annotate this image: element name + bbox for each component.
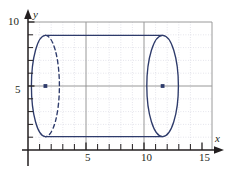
plot-canvas xyxy=(0,0,230,173)
y-tick-label-10: 10 xyxy=(8,16,19,27)
y-axis-label: y xyxy=(33,9,38,20)
y-axis-arrowhead xyxy=(24,9,32,19)
major-grid xyxy=(28,22,212,150)
cylinder-figure: 10 5 5 10 15 x y xyxy=(0,0,230,173)
axes-lines xyxy=(22,9,224,166)
x-tick-label-10: 10 xyxy=(141,152,152,163)
x-axis-ticks xyxy=(40,143,202,151)
x-tick-label-15: 15 xyxy=(199,152,210,163)
back-ellipse-center-dot xyxy=(44,84,48,88)
y-tick-label-5: 5 xyxy=(15,84,21,95)
x-axis-label: x xyxy=(215,133,220,144)
x-axis-arrowhead xyxy=(214,146,224,154)
x-tick-label-5: 5 xyxy=(85,152,91,163)
front-ellipse-center-dot xyxy=(161,84,165,88)
